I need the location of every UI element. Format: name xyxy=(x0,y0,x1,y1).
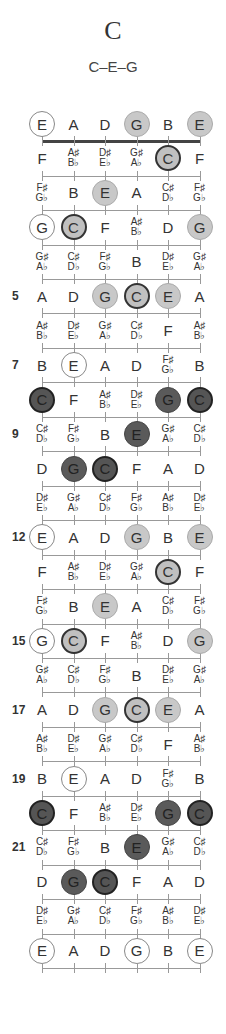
note-label: A♯B♭ xyxy=(27,729,57,759)
natural-note: A xyxy=(163,461,173,476)
enharmonic-note: F♯G♭ xyxy=(36,596,49,616)
note-label: A xyxy=(185,695,215,725)
note-label: G♯A♭ xyxy=(27,660,57,690)
fret-line xyxy=(42,555,200,556)
enharmonic-note: D♯E♭ xyxy=(36,493,48,513)
note-marker-c: C xyxy=(155,145,181,171)
natural-note: F xyxy=(163,323,172,338)
enharmonic-note: C♯D♭ xyxy=(193,837,205,857)
note-marker-g: G xyxy=(29,214,55,240)
note-label: G♯A♭ xyxy=(59,901,89,931)
note-marker-g: G xyxy=(29,628,55,654)
note-label: G♯A♭ xyxy=(122,557,152,587)
enharmonic-note: C♯D♭ xyxy=(36,424,48,444)
string-tick xyxy=(74,963,75,968)
note-marker-c: C xyxy=(61,214,87,240)
enharmonic-note: C♯D♭ xyxy=(130,321,142,341)
note-label: B xyxy=(59,178,89,208)
enharmonic-note: D♯E♭ xyxy=(130,390,142,410)
note-label: F xyxy=(153,316,183,346)
note-marker-g: G xyxy=(61,869,87,895)
note-marker-c: C xyxy=(92,869,118,895)
note-label: A♯B♭ xyxy=(185,316,215,346)
note-label: A xyxy=(27,695,57,725)
natural-note: B xyxy=(163,530,173,545)
note-marker-e: E xyxy=(92,180,118,206)
enharmonic-note: G♯A♭ xyxy=(193,252,206,272)
fret-number: 17 xyxy=(12,703,28,717)
note-label: F♯G♭ xyxy=(153,350,183,380)
note-label: C♯D♭ xyxy=(153,591,183,621)
note-marker-e: E xyxy=(187,524,213,550)
natural-note: D xyxy=(68,289,79,304)
note-label: A xyxy=(90,764,120,794)
enharmonic-note: A♯B♭ xyxy=(131,217,143,237)
note-label: G♯A♭ xyxy=(185,660,215,690)
natural-note: F xyxy=(195,564,204,579)
note-label: D xyxy=(153,626,183,656)
note-label: C♯D♭ xyxy=(27,832,57,862)
enharmonic-note: A♯B♭ xyxy=(194,734,206,754)
enharmonic-note: C♯D♭ xyxy=(99,493,111,513)
fret-line xyxy=(42,865,200,866)
enharmonic-note: D♯E♭ xyxy=(67,321,79,341)
natural-note: D xyxy=(163,633,174,648)
fret-line xyxy=(42,176,200,177)
note-label: F xyxy=(59,798,89,828)
note-label: D xyxy=(90,936,120,966)
string-tick xyxy=(168,963,169,968)
note-label: C♯D♭ xyxy=(90,901,120,931)
note-label: F♯G♭ xyxy=(59,832,89,862)
enharmonic-note: F♯G♭ xyxy=(130,906,143,926)
natural-note: A xyxy=(194,702,204,717)
natural-note: B xyxy=(163,117,173,132)
note-label: B xyxy=(59,591,89,621)
enharmonic-note: D♯E♭ xyxy=(162,665,174,685)
enharmonic-note: A♯B♭ xyxy=(99,803,111,823)
enharmonic-note: D♯E♭ xyxy=(99,562,111,582)
note-label: D xyxy=(90,109,120,139)
note-label: F xyxy=(27,143,57,173)
note-label: G♯A♭ xyxy=(153,419,183,449)
enharmonic-note: F♯G♭ xyxy=(193,183,206,203)
note-label: D xyxy=(122,350,152,380)
note-label: A xyxy=(122,591,152,621)
natural-note: A xyxy=(131,599,141,614)
note-label: F xyxy=(122,454,152,484)
note-label: F♯G♭ xyxy=(27,178,57,208)
fret-line xyxy=(42,313,200,314)
note-marker-e: E xyxy=(61,352,87,378)
natural-note: D xyxy=(68,702,79,717)
enharmonic-note: C♯D♭ xyxy=(67,252,79,272)
natural-note: D xyxy=(100,943,111,958)
natural-note: F xyxy=(163,737,172,752)
natural-note: A xyxy=(100,771,110,786)
natural-note: B xyxy=(100,427,110,442)
note-marker-e: E xyxy=(92,593,118,619)
note-marker-e: E xyxy=(124,834,150,860)
natural-note: A xyxy=(68,117,78,132)
enharmonic-note: G♯A♭ xyxy=(162,424,175,444)
natural-note: A xyxy=(37,702,47,717)
fret-line xyxy=(42,934,200,935)
note-label: F♯G♭ xyxy=(185,178,215,208)
fret-line xyxy=(42,624,200,625)
enharmonic-note: A♯B♭ xyxy=(194,321,206,341)
fretboard: 5791215171921EADGBEFA♯B♭D♯E♭G♯A♭CFF♯G♭BE… xyxy=(0,0,226,1034)
natural-note: B xyxy=(131,668,141,683)
note-label: B xyxy=(153,936,183,966)
note-marker-c: C xyxy=(155,559,181,585)
natural-note: B xyxy=(37,771,47,786)
natural-note: F xyxy=(195,151,204,166)
note-marker-g: G xyxy=(124,524,150,550)
string-tick xyxy=(137,963,138,968)
natural-note: F xyxy=(132,461,141,476)
natural-note: A xyxy=(68,943,78,958)
natural-note: B xyxy=(37,358,47,373)
note-label: D xyxy=(27,867,57,897)
note-label: D♯E♭ xyxy=(90,557,120,587)
enharmonic-note: G♯A♭ xyxy=(130,148,143,168)
note-label: C♯D♭ xyxy=(90,488,120,518)
natural-note: B xyxy=(68,599,78,614)
enharmonic-note: G♯A♭ xyxy=(99,321,112,341)
